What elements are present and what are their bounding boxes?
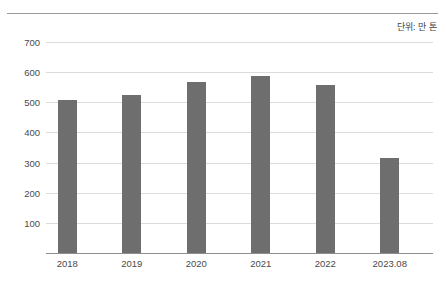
- gridline: [46, 102, 433, 103]
- gridline: [46, 223, 433, 224]
- gridline: [46, 72, 433, 73]
- gridline: [46, 193, 433, 194]
- bar: [251, 76, 270, 253]
- y-axis-tick-label: 300: [0, 157, 40, 168]
- x-axis-tick-label: 2018: [57, 258, 78, 269]
- y-axis-tick-label: 200: [0, 187, 40, 198]
- bar: [122, 95, 141, 253]
- x-axis-tick-labels: 201820192020202120222023.08: [46, 258, 433, 278]
- x-axis-tick-label: 2020: [186, 258, 207, 269]
- x-axis-tick-label: 2021: [250, 258, 271, 269]
- y-axis-tick-label: 700: [0, 37, 40, 48]
- bar: [380, 158, 399, 253]
- plot-area: [46, 42, 433, 253]
- x-axis-tick-label: 2022: [315, 258, 336, 269]
- y-axis-tick-label: 500: [0, 97, 40, 108]
- unit-annotation: 단위: 만 톤: [397, 20, 437, 33]
- y-axis-tick-labels: 100200300400500600700: [0, 42, 40, 253]
- gridline: [46, 42, 433, 43]
- x-axis-tick-label: 2023.08: [373, 258, 407, 269]
- y-axis-tick-label: 100: [0, 217, 40, 228]
- bar: [58, 100, 77, 253]
- bar-chart-figure: 단위: 만 톤 100200300400500600700 2018201920…: [0, 0, 446, 292]
- x-axis-line: [46, 253, 433, 254]
- bar: [316, 85, 335, 253]
- x-axis-tick-label: 2019: [121, 258, 142, 269]
- gridline: [46, 132, 433, 133]
- y-axis-tick-label: 600: [0, 67, 40, 78]
- bar: [187, 82, 206, 253]
- gridline: [46, 163, 433, 164]
- top-divider-rule: [7, 13, 438, 14]
- y-axis-tick-label: 400: [0, 127, 40, 138]
